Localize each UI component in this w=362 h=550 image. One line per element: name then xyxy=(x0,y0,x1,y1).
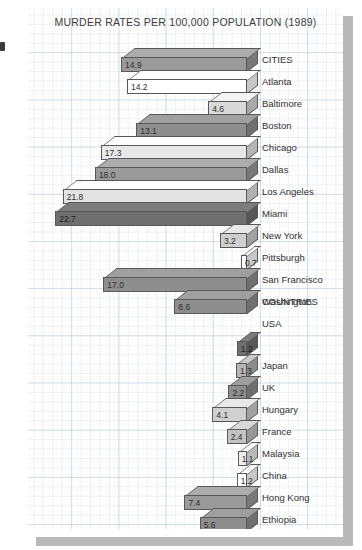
bar-front-face: 1.2 xyxy=(237,341,247,356)
category-label-china: China xyxy=(262,470,287,481)
bar-japan: 1.2 xyxy=(237,341,247,356)
bar-front-face: 3.2 xyxy=(220,233,247,248)
bar-usa: 8.6 xyxy=(174,299,247,314)
bar-value-label: 17.3 xyxy=(105,148,122,158)
bar-chile: 5.6 xyxy=(200,517,247,529)
group-header-countries: COUNTRIES xyxy=(262,296,318,307)
bar-value-label: 21.8 xyxy=(67,192,84,202)
category-label-boston: Boston xyxy=(262,120,292,131)
bar-value-label: 4.1 xyxy=(216,410,228,420)
bar-value-label: 4.6 xyxy=(212,104,224,114)
category-label-san-francisco: San Francisco xyxy=(262,274,323,285)
bar-china: 1.1 xyxy=(238,451,247,466)
category-label-new-york: New York xyxy=(262,230,302,241)
bar-value-label: 22.7 xyxy=(59,214,76,224)
category-label-pittsburgh: Pittsburgh xyxy=(262,252,305,263)
bar-new-york: 22.7 xyxy=(55,211,247,226)
category-label-uk: UK xyxy=(262,382,275,393)
bar-chart-plot: 14.914.24.613.117.318.021.822.73.20.717.… xyxy=(28,8,343,529)
bar-value-label: 5.6 xyxy=(204,520,216,530)
category-label-hungary: Hungary xyxy=(262,404,298,415)
bar-value-label: 3.2 xyxy=(224,236,236,246)
paper-shadow-bottom xyxy=(36,537,353,546)
bar-value-label: 1.2 xyxy=(241,476,253,486)
category-label-usa: USA xyxy=(262,318,282,329)
category-label-baltimore: Baltimore xyxy=(262,98,302,109)
category-label-atlanta: Atlanta xyxy=(262,76,292,87)
category-label-chicago: Chicago xyxy=(262,142,297,153)
bar-value-label: 14.9 xyxy=(125,60,142,70)
bar-pittsburgh: 3.2 xyxy=(220,233,247,248)
bar-front-face: 1.1 xyxy=(238,451,247,466)
category-label-ethiopia: Ethiopia xyxy=(262,514,296,525)
bar-front-face: 8.6 xyxy=(174,299,247,314)
category-label-dallas: Dallas xyxy=(262,164,288,175)
bar-front-face: 22.7 xyxy=(55,211,247,226)
category-label-malaysia: Malaysia xyxy=(262,448,300,459)
bar-value-label: 0.7 xyxy=(245,258,257,268)
category-label-france: France xyxy=(262,426,292,437)
category-label-miami: Miami xyxy=(262,208,287,219)
bar-front-face: 5.6 xyxy=(200,517,247,529)
bar-value-label: 17.0 xyxy=(107,280,124,290)
group-header-cities: CITIES xyxy=(262,54,293,65)
bar-value-label: 1.3 xyxy=(240,366,252,376)
page-edge-mark xyxy=(0,42,5,51)
bar-value-label: 8.6 xyxy=(178,302,190,312)
bar-value-label: 13.1 xyxy=(140,126,157,136)
bar-value-label: 18.0 xyxy=(99,170,116,180)
bar-value-label: 2.2 xyxy=(232,388,244,398)
bar-malaysia: 2.4 xyxy=(227,429,247,444)
bar-value-label: 1.2 xyxy=(241,344,253,354)
paper-shadow-right xyxy=(343,16,353,537)
bar-value-label: 1.1 xyxy=(242,454,254,464)
bar-value-label: 14.2 xyxy=(131,82,148,92)
bar-value-label: 7.4 xyxy=(188,498,200,508)
chart-paper: MURDER RATES PER 100,000 POPULATION (198… xyxy=(28,8,343,529)
bar-value-label: 2.4 xyxy=(231,432,243,442)
category-label-hong-kong: Hong Kong xyxy=(262,492,310,503)
bar-front-face: 2.4 xyxy=(227,429,247,444)
category-label-japan: Japan xyxy=(262,360,288,371)
category-label-los-angeles: Los Angeles xyxy=(262,186,314,197)
